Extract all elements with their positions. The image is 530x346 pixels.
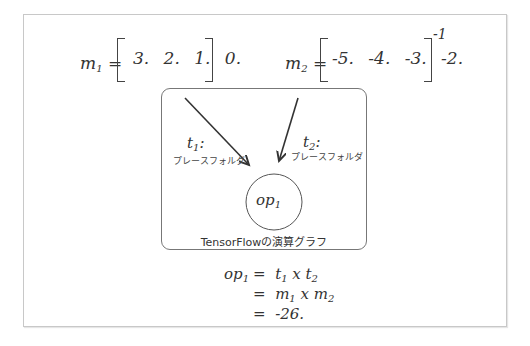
result-line-2: = m1 x m2	[253, 285, 334, 304]
t1-label: t1:	[187, 134, 204, 153]
result-line-1: = t1 x t2	[253, 265, 318, 284]
result-lhs: op1	[224, 265, 249, 284]
t2-description: プレースフォルダ	[291, 150, 363, 163]
op1-node-label: op1	[256, 191, 281, 210]
graph-caption: TensorFlowの演算グラフ	[161, 233, 367, 249]
t1-description: プレースフォルダ	[173, 154, 245, 167]
result-line-3: = -26.	[253, 305, 304, 323]
